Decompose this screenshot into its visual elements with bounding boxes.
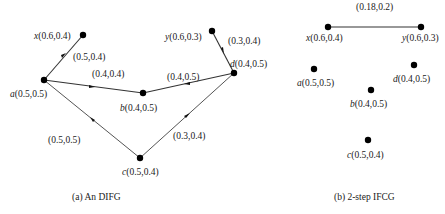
- caption-a: (a) An DIFG: [72, 192, 121, 203]
- node-b-b: [368, 87, 374, 93]
- node-label-a: a(0.5,0.5): [10, 89, 47, 100]
- node-label-d: d(0.4,0.5): [230, 59, 267, 70]
- node-b-c: [365, 137, 371, 143]
- node-a-b: [140, 90, 146, 96]
- node-label-b-a: a(0.5,0.5): [297, 78, 334, 89]
- node-label-b-b: b(0.4,0.5): [350, 99, 387, 110]
- node-b-y: [418, 24, 424, 30]
- edge-label-c-d: (0.3,0.4): [173, 131, 205, 142]
- node-a-x: [80, 32, 86, 38]
- node-label-c: c(0.5,0.4): [122, 167, 159, 178]
- node-b-a: [311, 66, 317, 72]
- arrow-y-d-icon: [221, 47, 224, 54]
- edge-label-d-b: (0.4,0.5): [167, 72, 199, 83]
- node-label-y: y(0.6,0.3): [164, 32, 202, 43]
- edge-label-b-x-y: (0.18,0.2): [356, 2, 393, 13]
- node-label-x: x(0.6,0.4): [33, 31, 71, 42]
- node-a-a: [41, 77, 47, 83]
- node-b-x: [325, 24, 331, 30]
- node-label-b-c: c(0.5,0.4): [347, 150, 384, 161]
- edge-label-y-d: (0.3,0.4): [228, 36, 260, 47]
- edge-label-c-a: (0.5,0.5): [48, 135, 80, 146]
- node-b-d: [411, 62, 417, 68]
- node-label-b-y: y(0.6,0.3): [401, 33, 439, 44]
- edge-label-a-b: (0.4,0.4): [92, 69, 124, 80]
- node-a-y: [209, 28, 215, 34]
- node-label-b: b(0.4,0.5): [120, 103, 157, 114]
- diagram-canvas: x(0.6,0.4) a(0.5,0.5) b(0.4,0.5) y(0.6,0…: [0, 0, 445, 214]
- node-label-b-d: d(0.4,0.5): [393, 74, 430, 85]
- caption-b: (b) 2-step IFCG: [334, 192, 395, 203]
- node-a-d: [231, 70, 237, 76]
- node-a-c: [137, 155, 143, 161]
- edge-label-a-x: (0.5,0.4): [73, 52, 105, 63]
- node-label-b-x: x(0.6,0.4): [305, 33, 343, 44]
